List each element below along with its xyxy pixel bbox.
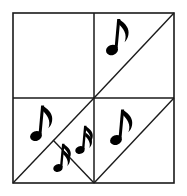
figure-container: Square partitioned into triangles with m…	[0, 0, 187, 196]
geometric-music-diagram	[0, 0, 187, 196]
